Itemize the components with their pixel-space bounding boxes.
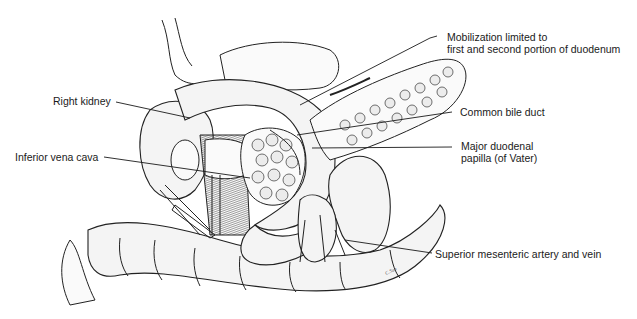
label-major-papilla: Major duodenal papilla (of Vater) [461,140,537,164]
label-mobilization-line1: Mobilization limited to [447,31,620,43]
label-mobilization-line2: first and second portion of duodenum [447,43,620,55]
label-right-kidney: Right kidney [53,95,111,107]
label-common-bile-duct: Common bile duct [460,106,545,118]
label-sma-smv: Superior mesenteric artery and vein [435,248,601,260]
label-papilla-line1: Major duodenal [461,140,537,152]
label-mobilization: Mobilization limited to first and second… [447,31,620,55]
label-inferior-vena-cava: Inferior vena cava [15,151,98,163]
label-papilla-line2: papilla (of Vater) [461,152,537,164]
pancreatic-head [241,128,305,205]
